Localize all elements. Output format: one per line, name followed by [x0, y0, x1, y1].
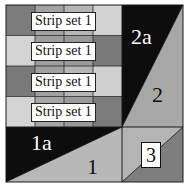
piece-label-2a: 2a	[131, 26, 152, 48]
strip-set-label: Strip set 1	[31, 12, 96, 31]
piece-label-3: 3	[141, 142, 161, 168]
piece-label-1a: 1a	[31, 132, 52, 154]
quilt-block-diagram: Strip set 1 Strip set 1 Strip set 1 Stri…	[0, 0, 188, 188]
strip-set-label: Strip set 1	[31, 42, 96, 61]
piece-label-2: 2	[152, 84, 163, 106]
piece-1a-1	[6, 127, 122, 182]
strip-set-label: Strip set 1	[31, 103, 96, 122]
strip-set-label: Strip set 1	[31, 73, 96, 92]
piece-label-1: 1	[87, 156, 98, 178]
